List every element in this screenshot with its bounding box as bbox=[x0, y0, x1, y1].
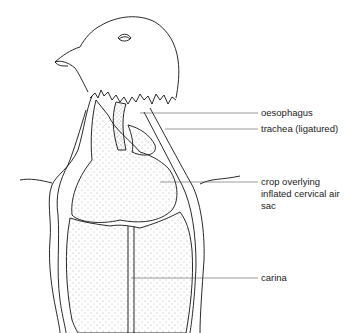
label-crop-line1: crop overlying bbox=[261, 176, 320, 187]
label-crop-line3: sac bbox=[261, 200, 276, 211]
pigeon-illustration bbox=[0, 0, 350, 333]
label-crop-line2: inflated cervical air bbox=[261, 188, 340, 199]
label-trachea: trachea (ligatured) bbox=[261, 123, 338, 134]
label-oesophagus: oesophagus bbox=[261, 107, 313, 118]
label-carina: carina bbox=[261, 272, 287, 283]
diagram: oesophagus trachea (ligatured) crop over… bbox=[0, 0, 350, 333]
